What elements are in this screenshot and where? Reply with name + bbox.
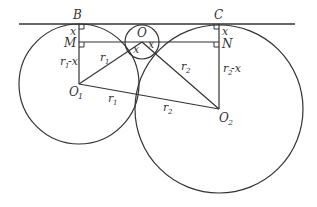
label-m: M [63, 36, 77, 50]
label-n: N [221, 37, 233, 51]
segment-o1-o2 [79, 84, 219, 109]
label-r1-upper-sub: 1 [105, 58, 109, 66]
label-r1-lower-sub: 1 [113, 99, 117, 107]
label-o: O [137, 26, 147, 40]
label-x-mid-left: x [133, 43, 140, 56]
segment-o2-o [142, 42, 219, 109]
label-x-mid-right: x [148, 38, 155, 51]
label-o1-sub: 1 [78, 92, 83, 101]
geometry-diagram: B C M N O O 1 O 2 x x x x r 1 -x r 2 -x … [0, 0, 317, 207]
label-r1-minus-x-tail: -x [68, 55, 79, 68]
label-r2-upper-sub: 2 [185, 67, 191, 75]
label-b: B [72, 8, 82, 22]
label-r2-lower-sub: 2 [167, 108, 173, 116]
right-angle-m [79, 42, 84, 47]
label-x-left: x [70, 25, 77, 38]
label-o2-sub: 2 [227, 118, 233, 127]
right-angle-n [214, 42, 219, 47]
label-r2-minus-x-tail: -x [231, 62, 242, 75]
label-c: C [214, 8, 223, 22]
label-x-right: x [222, 25, 229, 38]
